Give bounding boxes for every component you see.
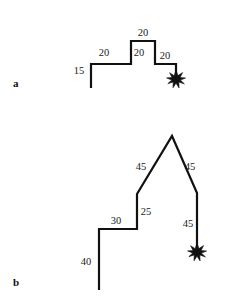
segment-label-b-2: 30 bbox=[111, 215, 122, 226]
segment-label-b-6: 45 bbox=[183, 218, 194, 229]
segment-label-a-4: 20 bbox=[138, 27, 149, 38]
segment-label-b-4: 45 bbox=[136, 161, 147, 172]
panel-letter-a: a bbox=[13, 78, 19, 89]
segment-label-b-1: 40 bbox=[81, 256, 92, 267]
figure-root: 15 20 20 20 20 a 40 30 25 45 45 45 b bbox=[0, 0, 226, 305]
panel-b-diagram-main: 40 30 25 45 45 45 bbox=[0, 120, 226, 305]
segment-label-b-5: 45 bbox=[185, 161, 196, 172]
burst-splat-icon bbox=[188, 243, 207, 261]
panel-b: 40 30 25 45 45 45 b bbox=[0, 120, 226, 305]
panel-letter-b: b bbox=[13, 277, 19, 288]
segment-label-a-3: 20 bbox=[134, 47, 145, 58]
segment-label-a-1: 15 bbox=[74, 65, 85, 76]
burst-splat-icon bbox=[167, 70, 186, 88]
segment-label-b-3: 25 bbox=[141, 206, 152, 217]
segment-label-a-2: 20 bbox=[99, 47, 110, 58]
panel-a: 15 20 20 20 20 a bbox=[0, 0, 226, 120]
segment-label-a-5: 20 bbox=[160, 50, 171, 61]
panel-a-diagram: 15 20 20 20 20 bbox=[0, 0, 226, 120]
